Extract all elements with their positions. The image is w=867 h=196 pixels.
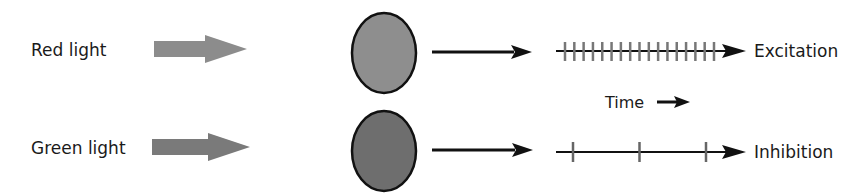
time-label: Time [604, 93, 644, 112]
stimulus-label-green: Green light [31, 138, 126, 158]
time-arrow-icon [657, 96, 690, 108]
stimulus-label-red: Red light [31, 40, 107, 60]
cell-red-icon [352, 13, 416, 93]
stimulus-arrow-red-icon [154, 35, 247, 63]
receptive-field-diagram: Red light Excitation Time Green light [0, 0, 867, 196]
cell-green-icon [352, 111, 416, 191]
signal-arrow-red-icon [432, 45, 532, 59]
row-green-light: Green light Inhibition [31, 111, 833, 191]
response-label-excitation: Excitation [754, 41, 838, 61]
spike-train-inhibition [556, 142, 746, 162]
signal-arrow-green-icon [432, 143, 533, 157]
spike-train-excitation [556, 42, 746, 61]
stimulus-arrow-green-icon [152, 133, 250, 161]
time-axis: Time [604, 93, 690, 112]
response-label-inhibition: Inhibition [754, 142, 833, 162]
row-red-light: Red light Excitation [31, 13, 838, 93]
